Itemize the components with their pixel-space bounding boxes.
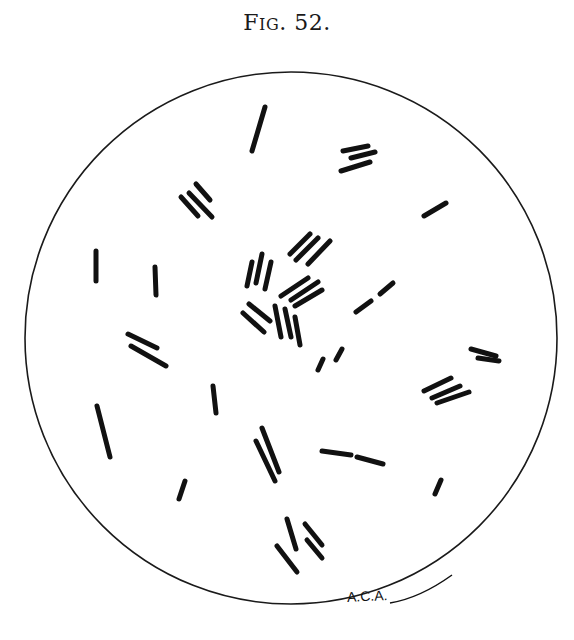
bacillus-rod: [351, 152, 375, 158]
bacillus-rod: [275, 306, 281, 337]
bacillus-rod: [471, 349, 496, 356]
bacillus-rod: [252, 107, 265, 151]
signature-underline: [390, 575, 452, 603]
microscope-field: [0, 0, 574, 640]
bacillus-rod: [478, 358, 499, 361]
bacillus-rod: [287, 519, 296, 549]
bacillus-rod: [435, 480, 441, 494]
bacillus-rod: [265, 262, 271, 289]
bacillus-rod: [356, 301, 371, 312]
bacillus-rod: [322, 451, 351, 455]
bacillus-rod: [247, 262, 252, 286]
bacillus-rod: [285, 309, 291, 337]
bacillus-rod: [318, 359, 323, 370]
bacillus-rod: [256, 254, 262, 283]
bacillus-rod: [336, 349, 342, 360]
bacillus-rod: [179, 481, 185, 499]
bacillus-rod: [357, 457, 383, 464]
bacillus-rod: [97, 406, 110, 457]
bacillus-rod: [262, 428, 279, 472]
bacilli-group: [96, 107, 499, 572]
bacillus-rod: [380, 283, 393, 294]
bacillus-rod: [295, 317, 300, 345]
bacillus-rod: [155, 267, 156, 295]
bacillus-rod: [341, 162, 370, 171]
bacillus-rod: [213, 386, 216, 413]
bacillus-rod: [196, 184, 210, 200]
bacillus-rod: [424, 203, 446, 216]
bacillus-rod: [343, 146, 368, 151]
artist-signature: A.C.A.: [347, 587, 388, 605]
bacillus-rod: [131, 346, 166, 366]
